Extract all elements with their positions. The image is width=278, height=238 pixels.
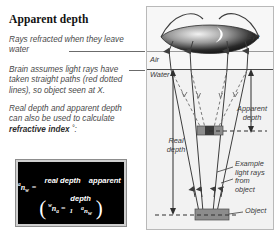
label-apparent-depth-line2: depth [231, 114, 273, 123]
figure-root: Apparent depth Rays refracted when they … [0, 0, 278, 238]
formula-alt-numerator: 1 [68, 207, 76, 215]
caption-paragraph-2: Brain assumes light rays have taken stra… [9, 65, 135, 96]
eye-icon [161, 14, 259, 54]
leader-line-2 [129, 70, 145, 71]
label-eye: Eye [247, 33, 260, 42]
formula-alt-lhs: wna [48, 202, 59, 214]
apparent-ray-arrows [182, 92, 238, 98]
label-air: Air [150, 56, 159, 65]
text-panel: Apparent depth Rays refracted when they … [0, 0, 143, 238]
caption-3-text-b: ˚: [70, 125, 77, 134]
label-apparent-depth: Apparent depth [231, 105, 273, 122]
label-example-rays: Example light rays from object [235, 160, 273, 194]
formula-alt-fraction: 1 anw [68, 199, 94, 217]
label-real-depth-line2: depth [159, 146, 193, 155]
caption-paragraph-1: Rays refracted when they leave water [9, 35, 135, 56]
label-example-line4: object [235, 186, 273, 195]
page-title: Apparent depth [9, 13, 88, 25]
caption-3-emphasis: refractive index [9, 125, 70, 134]
object-callout-line [229, 212, 243, 214]
apparent-depth-arrow [248, 69, 254, 133]
caption-paragraph-3: Real depth and apparent depth can also b… [9, 104, 135, 135]
label-water: Water [150, 71, 170, 80]
caption-3-text-a: Real depth and apparent depth can also b… [9, 104, 122, 123]
label-object: Object [245, 207, 266, 216]
paren-close: ) [96, 199, 103, 217]
leader-line-1 [69, 51, 145, 52]
label-real-depth: Real depth [159, 137, 193, 154]
paren-open: ( [39, 199, 46, 217]
refraction-diagram: Air Water Eye Apparent depth Real depth … [146, 6, 274, 230]
formula-box: anw = real depth apparent depth ( wna = … [16, 160, 126, 226]
formula-alt-equation: ( wna = 1 anw ) [18, 199, 124, 217]
formula-lhs: anw [18, 181, 29, 193]
formula-alt-equals: = [61, 204, 66, 213]
formula-alt-den-sub: w [88, 210, 92, 216]
formula-alt-sub: a [56, 208, 59, 214]
formula-lhs-sub: w [25, 187, 29, 193]
ray-direction-arrows [194, 189, 223, 197]
formula-numerator: real depth [42, 176, 82, 186]
formula-equals: = [32, 183, 37, 192]
formula-alt-denominator: anw [79, 207, 94, 215]
